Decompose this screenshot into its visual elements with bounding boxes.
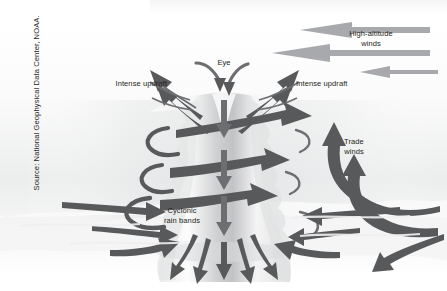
cloud-wisp-right xyxy=(300,234,420,236)
cloud-wisp-left xyxy=(20,224,140,226)
hurricane-cross-section-figure: Eye Intense updraft Intense updraft High… xyxy=(0,0,447,291)
cloud-wisp-upper-right xyxy=(290,216,410,218)
source-credit: Source: National Geophysical Data Center… xyxy=(32,0,41,191)
hurricane-diagram xyxy=(0,0,447,291)
cloud-wisp-lower-left xyxy=(70,242,190,244)
